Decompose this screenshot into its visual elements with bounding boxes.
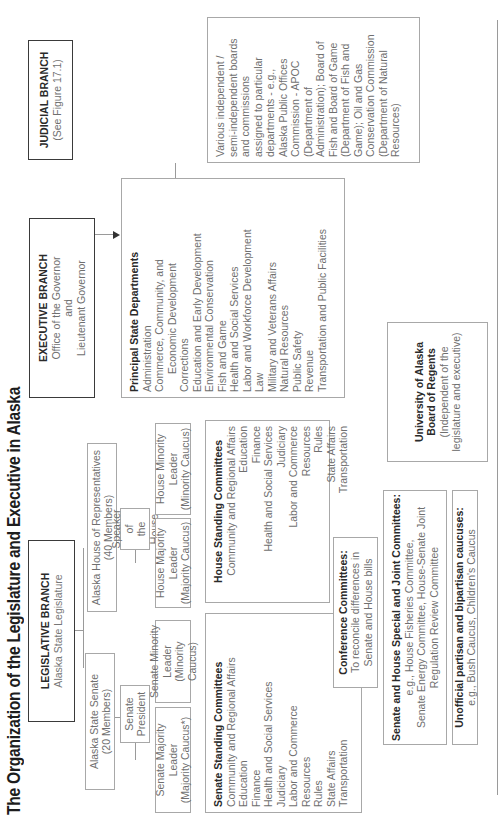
department-item: Transportation and Public Facilities [316,184,329,392]
senate-standing-heading: Senate Standing Committees [212,619,225,807]
departments-heading: Principal State Departments [128,184,141,392]
special-joint-line1: e.g., House Fisheries Committee, [403,491,416,744]
department-item: Corrections [178,184,191,392]
senate-president-line1: Senate [123,686,136,742]
special-joint-committees-box: Senate and House Special and Joint Commi… [383,490,447,745]
department-item: Law [253,184,266,392]
house-standing-committees-box: House Standing Committees Community and … [205,420,330,603]
university-line3: (Independent of the [438,323,451,461]
independent-line: assigned to particular [252,23,265,157]
department-item: Public Safety [291,184,304,392]
department-item: Natural Resources [278,184,291,392]
arrow-down-icon [113,231,120,239]
senate-committee-item: Finance [250,619,263,807]
chart-title: The Organization of the Legislature and … [3,387,25,815]
independent-line: (Department of Fish and [339,23,352,157]
senate-box: Alaska State Senate (20 Members) [85,653,115,790]
house-majority-leader-box: House Majority Leader (Majority Caucus) [155,518,191,608]
house-minority-leader-box: House Minority Leader (Minority Caucus) [155,423,191,515]
independent-line: Game); Oil and Gas [352,23,365,157]
independent-line: Resources) [389,23,402,157]
senate-committee-item: Resources [300,619,313,807]
university-line2: Board of Regents [425,323,438,461]
senate-line2: (20 Members) [100,654,113,789]
house-line1: Alaska House of Representatives [90,444,103,611]
department-item: Revenue [303,184,316,392]
connector-exec-to-dept [95,234,115,235]
university-regents-box: University of Alaska Board of Regents (I… [387,322,488,462]
senate-minority-line3: (Minority Caucus) [173,621,198,702]
house-committee-item: Judiciary [275,426,288,597]
legislative-branch-box: LEGISLATIVE BRANCH Alaska State Legislat… [28,540,75,722]
independent-line: semi-independent boards [227,23,240,157]
speaker-box: Speaker of the House [120,508,150,550]
independent-line: Conservation Commission [364,23,377,157]
independent-line: Various independent / [214,23,227,157]
independent-line: Alaska Public Offices [277,23,290,157]
special-joint-line3: Regulation Review Committee [428,491,441,744]
house-majority-line2: Leader [167,519,180,607]
conference-committees-box: Conference Committees: To reconcile diff… [333,537,378,688]
executive-line3: Lieutenant Governor [75,219,88,397]
speaker-line1: Speaker of [110,509,135,549]
house-committee-item: Community and Regional Affairs [225,426,238,597]
judicial-sub: (See Figure 17.1) [51,41,64,159]
independent-line: (Department of Natural [377,23,390,157]
special-joint-line2: Senate Energy Committee, House-Senate Jo… [415,491,428,744]
independent-line: (Department of [302,23,315,157]
house-committee-item: Labor and Commerce [287,426,300,597]
executive-line2: and [62,219,75,397]
house-majority-line3: (Majority Caucus) [179,519,192,607]
bottom-rule [497,20,498,795]
unofficial-line1: e.g., Bush Caucus, Children's Caucus [465,491,478,744]
independent-line: Commission - APOC [289,23,302,157]
house-minority-line1: House Minority [154,424,167,514]
judicial-branch-box: JUDICIAL BRANCH (See Figure 17.1) [28,40,73,160]
senate-committee-item: Education [237,619,250,807]
department-item: Commerce, Community, and [153,184,166,392]
legislative-heading: LEGISLATIVE BRANCH [39,541,52,721]
department-item: Health and Social Services [228,184,241,392]
house-minority-line2: Leader [167,424,180,514]
senate-majority-line2: Leader [167,708,180,812]
independent-line: Administration); Board of [314,23,327,157]
independent-line: and commissions [239,23,252,157]
conference-heading: Conference Committees: [337,538,350,687]
senate-president-box: Senate President [120,685,150,743]
connector-senate-house [83,548,84,668]
senate-committee-item: Health and Social Services [262,619,275,807]
house-minority-line3: (Minority Caucus) [179,424,192,514]
senate-line1: Alaska State Senate [88,654,101,789]
university-line1: University of Alaska [413,323,426,461]
university-line4: legislature and executive) [450,323,463,461]
independent-boards-box: Various independent / semi-independent b… [207,17,420,163]
connector-legislative-stem [75,630,83,631]
executive-heading: EXECUTIVE BRANCH [37,219,50,397]
special-joint-heading: Senate and House Special and Joint Commi… [390,491,403,744]
department-item: Environmental Conservation [203,184,216,392]
senate-minority-line2: Leader [161,621,174,702]
senate-majority-leader-box: Senate Majority Leader (Majority Caucus*… [155,707,191,813]
house-committee-item: Finance [250,426,263,597]
house-committee-item: Health and Social Services [262,426,275,597]
house-committee-item: Resources [300,426,313,597]
executive-branch-box: EXECUTIVE BRANCH Office of the Governor … [29,218,95,398]
conference-line1: To reconcile differences in [349,538,362,687]
org-chart-rotated: The Organization of the Legislature and … [0,0,502,818]
independent-line: departments - e.g., [264,23,277,157]
department-item: Education and Early Development [191,184,204,392]
department-item: Military and Veterans Affairs [266,184,279,392]
department-item: Administration [141,184,154,392]
executive-line1: Office of the Governor [50,219,63,397]
conference-line2: Senate and House bills [362,538,375,687]
legislative-sub: Alaska State Legislature [52,541,65,721]
unofficial-heading: Unofficial partisan and bipartisan caucu… [453,491,466,744]
senate-majority-line1: Senate Majority [154,708,167,812]
senate-committee-item: Labor and Commerce [287,619,300,807]
house-committee-item: Rules [312,426,325,597]
senate-president-line2: President [135,686,148,742]
house-majority-line1: House Majority [154,519,167,607]
senate-minority-leader-box: Senate Minority Leader (Minority Caucus) [155,620,191,703]
independent-line: Fish and Board of Game [327,23,340,157]
senate-committee-item: Rules [312,619,325,807]
